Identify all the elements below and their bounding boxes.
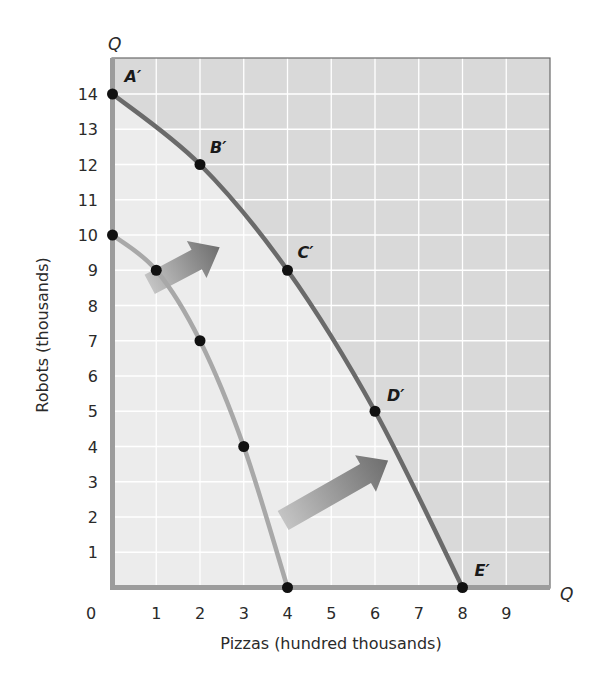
x-tick-label: 9 xyxy=(501,604,511,623)
x-tick-label: 2 xyxy=(195,604,205,623)
y-tick-label: 2 xyxy=(88,508,98,527)
x-tick-labels: 0123456789 xyxy=(86,604,511,623)
point-label: D′ xyxy=(387,386,405,405)
x-tick-label: 4 xyxy=(282,604,292,623)
x-tick-label: 5 xyxy=(326,604,336,623)
y-tick-label: 9 xyxy=(88,261,98,280)
x-axis-title: Pizzas (hundred thousands) xyxy=(220,634,441,653)
x-tick-label: 3 xyxy=(239,604,249,623)
y-tick-label: 13 xyxy=(78,120,98,139)
data-point xyxy=(151,265,162,276)
y-axis-title: Robots (thousands) xyxy=(33,257,52,412)
x-axis xyxy=(110,585,550,590)
data-point xyxy=(195,159,206,170)
x-tick-label: 0 xyxy=(86,604,96,623)
data-point xyxy=(457,582,468,593)
y-tick-label: 5 xyxy=(88,402,98,421)
y-tick-label: 10 xyxy=(78,226,98,245)
y-tick-label: 4 xyxy=(88,438,98,457)
y-tick-label: 14 xyxy=(78,85,98,104)
data-point xyxy=(107,89,118,100)
point-label: E′ xyxy=(475,561,491,580)
y-axis xyxy=(110,58,115,590)
data-point xyxy=(195,335,206,346)
y-tick-labels: 1234567891011121314 xyxy=(78,85,98,562)
x-tick-label: 1 xyxy=(151,604,161,623)
ppf-chart: A′B′C′D′E′ 1234567891011121314 012345678… xyxy=(0,0,600,690)
y-tick-label: 7 xyxy=(88,332,98,351)
x-tick-label: 8 xyxy=(457,604,467,623)
y-axis-end-label: Q xyxy=(108,34,121,54)
y-tick-label: 6 xyxy=(88,367,98,386)
data-point xyxy=(370,406,381,417)
data-point xyxy=(282,582,293,593)
x-tick-label: 7 xyxy=(414,604,424,623)
point-label: C′ xyxy=(298,243,315,262)
x-tick-label: 6 xyxy=(370,604,380,623)
y-tick-label: 3 xyxy=(88,473,98,492)
plot-area xyxy=(112,58,550,588)
y-tick-label: 1 xyxy=(88,543,98,562)
y-tick-label: 8 xyxy=(88,297,98,316)
y-tick-label: 11 xyxy=(78,191,98,210)
data-point xyxy=(238,441,249,452)
y-tick-label: 12 xyxy=(78,156,98,175)
point-label: A′ xyxy=(123,67,142,86)
x-axis-end-label: Q xyxy=(560,584,573,604)
data-point xyxy=(282,265,293,276)
point-label: B′ xyxy=(210,138,227,157)
data-point xyxy=(107,230,118,241)
